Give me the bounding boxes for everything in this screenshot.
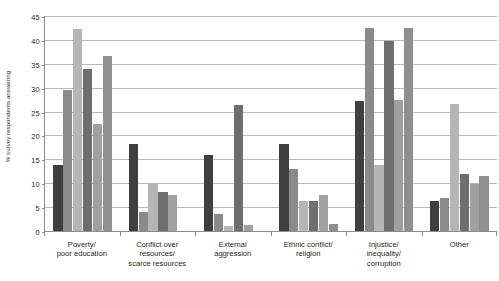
plot-wrapper: 454035302520151050: [44, 16, 497, 231]
bar-g4-s6: [329, 224, 338, 231]
category-label-5: Injustice/ inequality/ corruption: [346, 240, 422, 268]
y-tick-label-45: 45: [31, 13, 39, 22]
bar-g6-s2: [440, 198, 449, 231]
bar-g3-s4: [234, 105, 243, 231]
x-tick-6: [422, 231, 423, 236]
category-label-6: Other: [422, 240, 498, 249]
category-cell-6: Other: [422, 231, 498, 281]
bar-g2-s2: [139, 212, 148, 231]
bar-g2-s4: [158, 192, 167, 231]
bar-g5-s4: [384, 41, 393, 231]
x-tick-end: [496, 231, 497, 236]
y-tick-label-20: 20: [31, 132, 39, 141]
category-label-1: Poverty/ poor education: [44, 240, 120, 259]
y-tick-label-25: 25: [31, 108, 39, 117]
y-tick-label-40: 40: [31, 36, 39, 45]
x-tick-1: [44, 231, 45, 236]
category-label-4: Ethnic conflict/ religion: [271, 240, 347, 259]
bar-group-6: [422, 16, 497, 231]
bar-g4-s2: [289, 169, 298, 231]
category-label-3: External aggression: [195, 240, 271, 259]
y-tick-label-30: 30: [31, 84, 39, 93]
y-axis-title-text: % survey respondents answering: [5, 70, 12, 161]
bar-g5-s3: [374, 165, 383, 231]
x-tick-2: [120, 231, 121, 236]
category-axis: Poverty/ poor educationConflict over res…: [44, 231, 497, 281]
category-cell-1: Poverty/ poor education: [44, 231, 120, 281]
category-cell-3: External aggression: [195, 231, 271, 281]
y-tick-label-5: 5: [35, 204, 39, 213]
bar-group-1: [45, 16, 120, 231]
bar-g5-s5: [394, 100, 403, 231]
bar-group-5: [346, 16, 421, 231]
bar-g4-s1: [279, 144, 288, 231]
bar-g4-s5: [319, 195, 328, 231]
bar-g3-s1: [204, 155, 213, 231]
bar-g2-s5: [168, 195, 177, 231]
bar-g4-s3: [299, 201, 308, 231]
bar-chart: % survey respondents answering 454035302…: [0, 0, 499, 281]
y-tick-label-10: 10: [31, 180, 39, 189]
category-label-row: Poverty/ poor educationConflict over res…: [44, 231, 497, 281]
bar-group-4: [271, 16, 346, 231]
x-tick-3: [195, 231, 196, 236]
bar-g5-s2: [365, 28, 374, 231]
bar-g6-s4: [460, 174, 469, 231]
bar-group-3: [196, 16, 271, 231]
y-axis-title: % survey respondents answering: [0, 0, 16, 232]
bar-g2-s1: [129, 144, 138, 231]
bar-g4-s4: [309, 201, 318, 231]
y-tick-label-0: 0: [35, 228, 39, 237]
bar-g5-s6: [404, 28, 413, 231]
bar-g1-s2: [63, 90, 72, 231]
bar-groups: [45, 16, 497, 231]
bar-g2-s3: [148, 183, 157, 231]
y-tick-label-35: 35: [31, 60, 39, 69]
category-cell-2: Conflict over resources/ scarce resource…: [120, 231, 196, 281]
bar-g6-s1: [430, 201, 439, 231]
bar-g1-s4: [83, 69, 92, 231]
bar-g6-s5: [470, 184, 479, 231]
x-tick-4: [271, 231, 272, 236]
bar-g5-s1: [355, 101, 364, 231]
plot-area: 454035302520151050: [44, 16, 497, 231]
y-tick-label-15: 15: [31, 156, 39, 165]
category-cell-4: Ethnic conflict/ religion: [271, 231, 347, 281]
category-label-2: Conflict over resources/ scarce resource…: [120, 240, 196, 268]
bar-g1-s5: [93, 124, 102, 231]
bar-g1-s6: [103, 56, 112, 231]
bar-g6-s6: [479, 176, 488, 231]
bar-g3-s2: [214, 214, 223, 231]
bar-g1-s3: [73, 29, 82, 231]
bar-group-2: [120, 16, 195, 231]
x-tick-5: [346, 231, 347, 236]
bar-g1-s1: [53, 165, 62, 231]
bar-g6-s3: [450, 104, 459, 231]
category-cell-5: Injustice/ inequality/ corruption: [346, 231, 422, 281]
